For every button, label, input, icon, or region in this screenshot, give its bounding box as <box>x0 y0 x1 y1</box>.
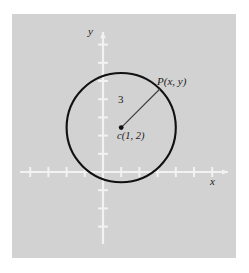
radius-segment <box>121 89 160 128</box>
x-axis <box>20 167 228 177</box>
x-axis-label: x <box>210 176 215 187</box>
x-axis-arrow <box>222 169 228 175</box>
point-p-label: P(x, y) <box>157 76 186 87</box>
y-axis-arrow <box>100 32 106 38</box>
y-axis <box>98 32 108 244</box>
figure-root: y x P(x, y) c(1, 2) 3 <box>0 0 249 273</box>
radius-label: 3 <box>118 94 124 105</box>
center-label: c(1, 2) <box>117 131 144 142</box>
y-axis-label: y <box>88 26 93 37</box>
